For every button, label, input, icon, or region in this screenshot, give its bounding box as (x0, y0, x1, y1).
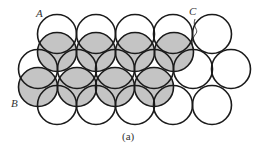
open-sphere (193, 86, 232, 125)
label-a: A (36, 8, 43, 19)
open-sphere (193, 15, 232, 54)
open-sphere (212, 50, 251, 89)
label-c: C (189, 6, 196, 17)
label-b: B (11, 98, 18, 109)
close-packed-spheres-diagram (0, 0, 261, 149)
figure-caption: (a) (122, 131, 134, 142)
